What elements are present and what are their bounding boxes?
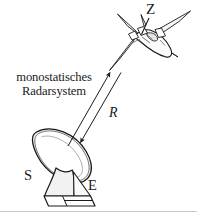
radar-diagram-figure: monostatisches Radarsystem Z R S E xyxy=(0,0,197,212)
aircraft-wing-left-front xyxy=(110,37,136,71)
parabolic-dish-antenna xyxy=(33,129,95,206)
target-label: Z xyxy=(146,1,155,18)
aircraft-target xyxy=(110,11,191,71)
dish-pedestal xyxy=(45,168,75,196)
figure-bottom-border xyxy=(0,211,197,212)
caption-line-2: Radarsystem xyxy=(6,84,102,98)
radar-system-caption: monostatisches Radarsystem xyxy=(6,70,102,98)
receive-label: E xyxy=(88,177,97,193)
range-label: R xyxy=(109,105,118,121)
transmit-label: S xyxy=(24,167,32,183)
caption-line-1: monostatisches xyxy=(6,70,102,84)
